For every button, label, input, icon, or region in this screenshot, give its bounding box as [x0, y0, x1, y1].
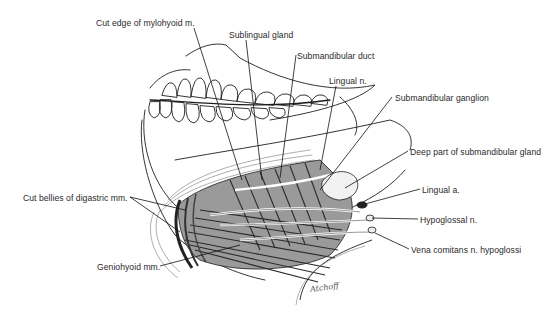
anatomy-figure: Cut edge of mylohyoid m. Sublingual glan… [0, 0, 558, 314]
label-lingual-a: Lingual a. [422, 185, 460, 195]
label-cut-edge-mylohyoid: Cut edge of mylohyoid m. [96, 18, 195, 28]
label-vena-comitans: Vena comitans n. hypoglossi [411, 245, 521, 255]
illustration [0, 0, 558, 314]
label-cut-bellies-digastric: Cut bellies of digastric mm. [23, 193, 128, 203]
label-deep-part-submandibular-gland: Deep part of submandibular gland [410, 147, 541, 157]
label-submandibular-duct: Submandibular duct [297, 51, 374, 61]
label-submandibular-ganglion: Submandibular ganglion [395, 93, 489, 103]
label-hypoglossal-n: Hypoglossal n. [420, 215, 477, 225]
label-geniohyoid-mm: Geniohyoid mm. [97, 262, 160, 272]
label-sublingual-gland: Sublingual gland [229, 30, 293, 40]
muscle-mass [176, 160, 376, 282]
label-lingual-n: Lingual n. [329, 76, 367, 86]
